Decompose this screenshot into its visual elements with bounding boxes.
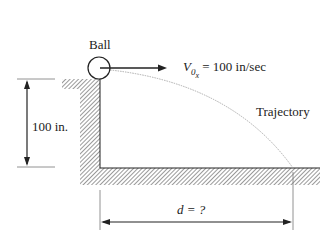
velocity-label: V0x = 100 in/sec xyxy=(183,60,266,79)
distance-label: d = ? xyxy=(177,203,205,216)
trajectory-label: Trajectory xyxy=(256,105,310,118)
height-label: 100 in. xyxy=(32,120,68,133)
velocity-value: = 100 in/sec xyxy=(202,59,266,74)
ball-label: Ball xyxy=(89,38,111,51)
distance-rest: = ? xyxy=(184,202,206,217)
velocity-subsubscript: x xyxy=(195,70,199,79)
cliff xyxy=(62,79,320,185)
velocity-symbol: V xyxy=(183,59,191,74)
